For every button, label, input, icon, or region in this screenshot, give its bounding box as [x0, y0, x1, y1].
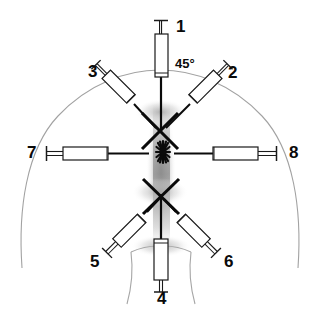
syringe-label-3: 3 [88, 63, 97, 80]
syringe-label-7: 7 [27, 144, 36, 161]
syringe-6-plunger-rod [207, 242, 217, 252]
neck-base-v-lines [127, 252, 132, 304]
angle-label-45deg: 45° [175, 57, 195, 70]
syringe-label-5: 5 [90, 253, 99, 270]
syringe-3-barrel [102, 70, 135, 103]
syringe-5-plunger-rod [106, 242, 116, 252]
syringe-label-6: 6 [224, 253, 233, 270]
syringe-5-plunger-rod-b [108, 244, 118, 254]
syringe-label-2: 2 [228, 64, 237, 81]
syringe-6-plunger-rod-b [205, 244, 215, 254]
syringe-label-4: 4 [157, 290, 166, 307]
injection-diagram: 1 2 3 4 5 6 7 8 45° [0, 0, 320, 320]
syringe-8-barrel [213, 147, 258, 160]
syringe-7-barrel [63, 147, 108, 160]
syringe-4-barrel [154, 239, 168, 280]
neck-base-v-lines-right [190, 252, 195, 304]
syringe-label-8: 8 [289, 144, 298, 161]
central-starburst [156, 141, 170, 163]
syringe-1-barrel [155, 34, 168, 77]
diagram-canvas [0, 0, 320, 320]
syringe-8 [174, 146, 277, 161]
syringe-label-1: 1 [176, 18, 185, 35]
syringe-7 [47, 146, 150, 161]
